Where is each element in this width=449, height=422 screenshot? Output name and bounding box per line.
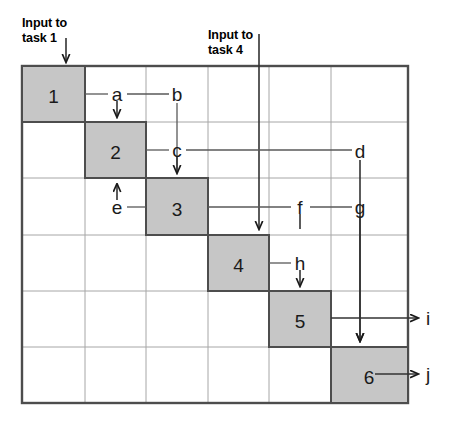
- task-cell-5: 5: [269, 291, 331, 347]
- flow-label-i: i: [426, 308, 430, 329]
- dsm-diagram: Input to task 1 Input to task 4: [0, 0, 449, 422]
- task-cell-3: 3: [146, 178, 208, 235]
- flow-label-c: c: [172, 140, 182, 161]
- task-cell-1: 1: [22, 66, 85, 122]
- task-cell-1-label: 1: [48, 86, 59, 107]
- task-cell-5-label: 5: [295, 311, 306, 332]
- task-cell-3-label: 3: [172, 199, 183, 220]
- task-cell-4: 4: [208, 235, 269, 291]
- flow-label-b: b: [172, 84, 183, 105]
- task-cell-6: 6: [331, 347, 408, 403]
- flow-label-h: h: [295, 253, 306, 274]
- task-cell-6-label: 6: [364, 367, 375, 388]
- flow-label-g: g: [355, 197, 366, 218]
- flow-label-j: j: [425, 364, 430, 385]
- task-cell-2-label: 2: [110, 142, 121, 163]
- flow-label-f: f: [297, 197, 303, 218]
- dsm-matrix-svg: 1 2 3 4 5 6: [0, 0, 449, 422]
- task-cell-4-label: 4: [233, 255, 244, 276]
- flow-label-e: e: [112, 197, 123, 218]
- task-cell-2: 2: [85, 122, 146, 178]
- flow-label-d: d: [355, 141, 366, 162]
- flow-label-a: a: [112, 84, 123, 105]
